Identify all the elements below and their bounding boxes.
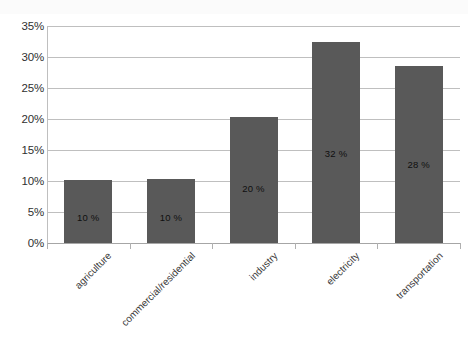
bar-commercial-residential[interactable] (147, 179, 195, 243)
y-tick-label: 10% (2, 176, 44, 188)
y-tick-label: 5% (2, 207, 44, 219)
bar-group: 32 % (312, 26, 360, 243)
y-tick-label: 15% (2, 145, 44, 157)
bar-electricity[interactable] (312, 42, 360, 243)
x-tickmark (295, 243, 296, 249)
bar-value-label: 32 % (312, 149, 360, 159)
category-label: industry (247, 250, 280, 283)
bar-group: 10 % (147, 26, 195, 243)
category-label: transportation (394, 250, 445, 301)
bar-group: 20 % (230, 26, 278, 243)
bar-group: 10 % (64, 26, 112, 243)
y-tick-label: 25% (2, 83, 44, 95)
bar-group: 28 % (395, 26, 443, 243)
x-tickmark (460, 243, 461, 249)
bar-industry[interactable] (230, 117, 278, 243)
x-tickmark (377, 243, 378, 249)
scan-artifact-top (0, 0, 468, 14)
bar-value-label: 28 % (395, 160, 443, 170)
bar-value-label: 10 % (147, 213, 195, 223)
y-axis-tick-labels: 0%5%10%15%20%25%30%35% (0, 0, 44, 347)
y-tick-label: 35% (2, 21, 44, 33)
y-tick-label: 20% (2, 114, 44, 126)
x-tickmark (212, 243, 213, 249)
bar-value-label: 10 % (64, 213, 112, 223)
bar-transportation[interactable] (395, 66, 443, 243)
x-tickmark (47, 243, 48, 249)
x-tickmark (130, 243, 131, 249)
plot-area: 10 %10 %20 %32 %28 % (47, 26, 460, 243)
y-tick-label: 30% (2, 52, 44, 64)
category-label: agriculture (73, 250, 114, 291)
category-label: electricity (325, 250, 362, 287)
category-label: commercial/residential (119, 250, 197, 328)
bar-value-label: 20 % (230, 184, 278, 194)
bar-chart: 0%5%10%15%20%25%30%35% 10 %10 %20 %32 %2… (0, 0, 468, 347)
gridline-0 (47, 243, 460, 244)
y-tick-label: 0% (2, 238, 44, 250)
